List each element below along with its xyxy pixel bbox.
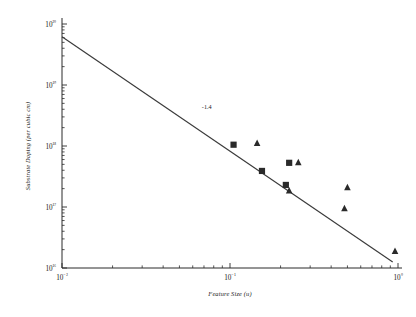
tick-label: 10¹⁶ xyxy=(46,263,57,273)
tick-label: 10¹⁹ xyxy=(46,80,57,90)
data-point-square xyxy=(283,182,289,188)
data-point-triangle xyxy=(341,205,348,211)
data-point-triangle xyxy=(254,139,261,145)
tick-label: 10⁻² xyxy=(56,272,68,282)
x-axis-tick-labels: 10⁻²10⁻¹10⁰ xyxy=(56,272,402,282)
slope-annotation: -1.4 xyxy=(202,103,212,110)
data-point-triangle xyxy=(295,159,302,165)
y-axis-title: Substrate Doping (per cubic cm) xyxy=(24,102,32,190)
data-point-triangle xyxy=(392,247,399,253)
x-axis-ticks xyxy=(62,263,398,268)
tick-label: 10⁰ xyxy=(393,272,402,282)
y-axis-tick-labels: 10¹⁶10¹⁷10¹⁸10¹⁹10²⁰ xyxy=(45,19,56,273)
data-point-triangle xyxy=(344,184,351,190)
chart-figure: 10⁻²10⁻¹10⁰ 10¹⁶10¹⁷10¹⁸10¹⁹10²⁰ -1.4 Fe… xyxy=(0,0,416,317)
data-point-square xyxy=(230,142,236,148)
data-point-square xyxy=(286,160,292,166)
chart-canvas: 10⁻²10⁻¹10⁰ 10¹⁶10¹⁷10¹⁸10¹⁹10²⁰ -1.4 Fe… xyxy=(0,0,416,317)
tick-label: 10²⁰ xyxy=(45,19,56,29)
x-axis-title: Feature Size (u) xyxy=(207,290,251,298)
data-markers xyxy=(230,139,398,253)
tick-label: 10¹⁷ xyxy=(46,202,57,212)
trend-line xyxy=(62,37,393,262)
tick-label: 10⁻¹ xyxy=(224,272,236,282)
tick-label: 10¹⁸ xyxy=(46,141,57,151)
data-point-square xyxy=(259,168,265,174)
y-axis-ticks xyxy=(62,24,67,268)
